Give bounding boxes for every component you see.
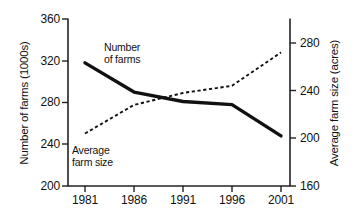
right-axis-ticks: [290, 43, 296, 186]
annotation-leader-number-of-farms: [96, 60, 103, 62]
series-line-average-farm-size: [85, 52, 281, 133]
farms-chart: Number of farms (1000s) Average farm siz…: [0, 0, 359, 223]
x-axis-ticks: [85, 186, 281, 192]
series-line-number-of-farms: [85, 63, 281, 136]
left-axis-ticks: [62, 19, 68, 186]
plot-area: [0, 0, 359, 223]
